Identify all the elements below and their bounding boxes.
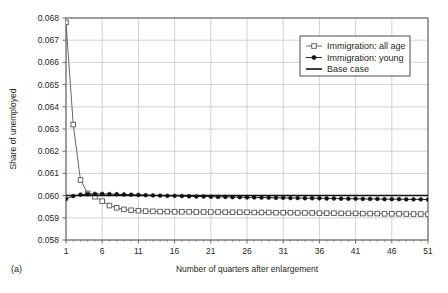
data-point-marker [122,207,127,212]
data-point-marker [180,210,185,215]
data-point-marker [172,210,177,215]
data-point-marker [158,194,162,198]
data-point-marker [281,210,286,215]
data-point-marker [317,211,322,216]
data-point-marker [209,210,214,215]
data-point-marker [397,197,401,201]
data-point-marker [368,197,372,201]
y-tick-label: 0.063 [38,124,60,134]
data-point-marker [71,122,76,127]
data-point-marker [346,211,351,216]
data-point-marker [245,195,249,199]
data-point-marker [339,211,344,216]
y-tick-label: 0.066 [38,57,60,67]
data-point-marker [260,196,264,200]
data-point-marker [100,199,105,204]
data-point-marker [129,208,134,213]
data-point-marker [368,211,373,216]
legend-label: Base case [327,64,369,74]
x-axis-title: Number of quarters after enlargement [176,264,319,274]
data-point-marker [318,196,322,200]
legend-label: Immigration: all age [327,41,406,51]
data-point-marker [194,195,198,199]
data-point-marker [375,197,379,201]
data-point-marker [180,194,184,198]
data-point-marker [165,209,170,214]
data-point-marker [419,197,423,201]
x-tick-label: 21 [206,246,216,256]
figure-panel-a: 0.0580.0590.0600.0610.0620.0630.0640.065… [0,0,448,293]
data-point-marker [412,197,416,201]
legend-marker-filled-dot-icon [312,55,316,59]
y-tick-label: 0.064 [38,102,60,112]
x-tick-label: 41 [351,246,361,256]
data-point-marker [173,194,177,198]
data-point-marker [382,212,387,217]
data-point-marker [129,193,133,197]
data-point-marker [296,196,300,200]
data-point-marker [274,196,278,200]
data-point-marker [375,211,380,216]
y-tick-label: 0.068 [38,13,60,23]
data-point-marker [158,209,163,214]
data-point-marker [289,196,293,200]
x-tick-label: 31 [278,246,288,256]
x-tick-label: 36 [315,246,325,256]
data-point-marker [252,195,256,199]
data-point-marker [86,192,90,196]
data-point-marker [281,196,285,200]
data-point-marker [310,211,315,216]
data-point-marker [353,211,358,216]
data-point-marker [346,197,350,201]
x-tick-label: 16 [170,246,180,256]
data-point-marker [71,194,75,198]
data-point-marker [354,197,358,201]
line-chart: 0.0580.0590.0600.0610.0620.0630.0640.065… [0,0,448,293]
data-point-marker [122,193,126,197]
data-point-marker [238,195,242,199]
y-tick-label: 0.059 [38,213,60,223]
data-point-marker [100,192,104,196]
data-point-marker [288,210,293,215]
data-point-marker [266,210,271,215]
data-point-marker [137,193,141,197]
data-point-marker [310,196,314,200]
x-tick-label: 6 [100,246,105,256]
x-tick-label: 46 [387,246,397,256]
data-point-marker [383,197,387,201]
data-point-marker [274,210,279,215]
data-point-marker [107,203,112,208]
y-tick-label: 0.058 [38,235,60,245]
data-point-marker [216,195,220,199]
data-point-marker [231,195,235,199]
data-point-marker [324,211,329,216]
data-point-marker [187,194,191,198]
data-point-marker [93,192,97,196]
data-point-marker [252,210,257,215]
data-point-marker [361,197,365,201]
data-point-marker [303,211,308,216]
chart-legend[interactable]: Immigration: all ageImmigration: youngBa… [300,36,410,76]
data-point-marker [144,193,148,197]
data-point-marker [194,210,199,215]
x-tick-label: 11 [134,246,143,256]
data-point-marker [187,210,192,215]
x-tick-label: 1 [64,246,69,256]
data-point-marker [259,210,264,215]
y-tick-label: 0.065 [38,80,60,90]
data-point-marker [295,211,300,216]
data-point-marker [151,209,156,214]
data-point-marker [136,208,141,213]
data-point-marker [78,178,83,183]
panel-label: (a) [11,264,22,274]
data-point-marker [114,206,119,211]
x-tick-label: 51 [423,246,433,256]
legend-label: Immigration: young [327,53,404,63]
data-point-marker [411,212,416,217]
data-point-marker [115,192,119,196]
data-point-marker [108,192,112,196]
data-point-marker [209,195,213,199]
data-point-marker [230,210,235,215]
legend-marker-open-square-icon [312,44,317,49]
data-point-marker [361,211,366,216]
